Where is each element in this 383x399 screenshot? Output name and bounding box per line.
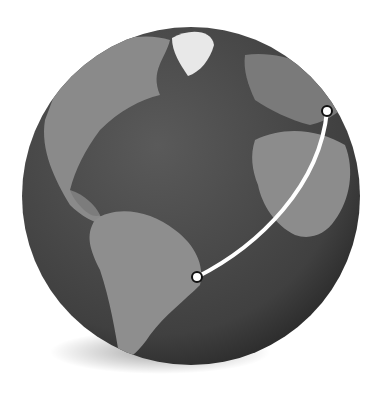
globe-map	[0, 0, 383, 399]
route-end-marker[interactable]	[322, 106, 332, 116]
route-start-marker[interactable]	[192, 272, 202, 282]
